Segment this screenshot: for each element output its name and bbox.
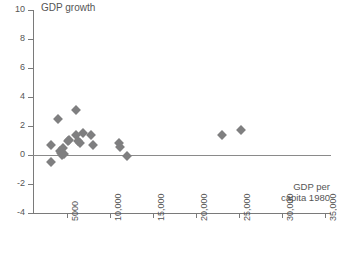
y-tick-label: -2 [0, 179, 25, 188]
x-tick-label: 5000 [71, 201, 80, 221]
y-tick-mark [28, 68, 33, 69]
y-tick-label: 8 [0, 34, 25, 43]
data-point [115, 142, 125, 152]
data-point [46, 157, 56, 167]
data-point [122, 151, 132, 161]
y-tick-mark [28, 213, 33, 214]
x-tick-mark [282, 213, 283, 218]
y-tick-label: 4 [0, 92, 25, 101]
x-tick-label: 35,000 [329, 193, 337, 221]
y-tick-label: 10 [0, 5, 25, 14]
data-point [88, 140, 98, 150]
x-tick-mark [153, 213, 154, 218]
data-point [236, 125, 246, 135]
data-point [71, 105, 81, 115]
scatter-chart: GDP growth 1086420-2-4 500010,00015,0002… [0, 0, 337, 259]
x-tick-mark [325, 213, 326, 218]
y-tick-label: 0 [0, 150, 25, 159]
data-point [86, 130, 96, 140]
y-tick-label: 6 [0, 63, 25, 72]
y-tick-label: -4 [0, 208, 25, 217]
x-axis-title-line2: capita 1980 [281, 192, 330, 203]
x-axis-title-line1: GDP per [281, 181, 330, 192]
x-tick-label: 25,000 [243, 193, 252, 221]
y-tick-mark [28, 184, 33, 185]
y-axis-title: GDP growth [41, 2, 95, 14]
y-tick-mark [28, 39, 33, 40]
x-tick-mark [110, 213, 111, 218]
y-tick-mark [28, 97, 33, 98]
zero-reference-line [33, 155, 331, 156]
x-tick-mark [67, 213, 68, 218]
x-tick-label: 15,000 [157, 193, 166, 221]
y-tick-mark [28, 155, 33, 156]
y-tick-mark [28, 10, 33, 11]
y-tick-mark [28, 126, 33, 127]
x-tick-mark [196, 213, 197, 218]
x-axis-title: GDP per capita 1980 [281, 181, 330, 203]
x-tick-label: 20,000 [200, 193, 209, 221]
x-tick-label: 10,000 [114, 193, 123, 221]
data-point [217, 130, 227, 140]
data-point [46, 140, 56, 150]
y-axis-line [33, 10, 34, 214]
data-point [53, 114, 63, 124]
x-tick-mark [239, 213, 240, 218]
y-tick-label: 2 [0, 121, 25, 130]
